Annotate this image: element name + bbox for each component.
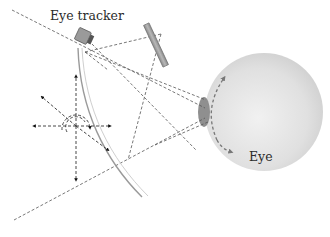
cornea [198,97,210,127]
eye-label: Eye [249,149,273,164]
reflector [144,23,169,67]
eye-tracker-device [74,27,95,46]
diagram-canvas [0,0,330,237]
sight-lines [12,10,208,220]
eye-tracking-diagram: Eye tracker Eye [0,0,330,237]
eye-tracker-label: Eye tracker [50,8,124,23]
head-movement-arrows [34,76,110,180]
